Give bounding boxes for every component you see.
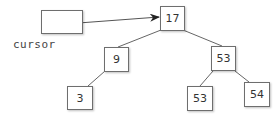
edge-53-53 xyxy=(200,71,213,86)
tree-node-right-right: 54 xyxy=(244,82,270,107)
tree-node-left-left: 3 xyxy=(67,86,93,110)
cursor-label: cursor xyxy=(13,38,56,51)
edge-17-53 xyxy=(183,30,222,46)
tree-node-root: 17 xyxy=(160,6,185,31)
edge-17-9 xyxy=(118,30,161,47)
tree-node-right-left: 53 xyxy=(187,86,213,111)
tree-diagram: cursor 17 9 53 3 53 54 xyxy=(0,0,280,116)
tree-node-right: 53 xyxy=(211,46,236,71)
cursor-box xyxy=(41,10,83,34)
edge-53-54 xyxy=(235,71,249,82)
tree-node-left: 9 xyxy=(104,47,129,72)
edge-9-3 xyxy=(88,71,105,86)
